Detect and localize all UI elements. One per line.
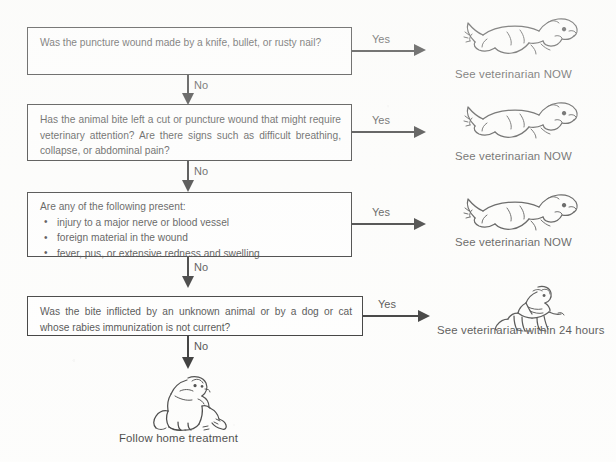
no-connector-3 bbox=[187, 257, 189, 278]
outcome-label-4: See veterinarian within 24 hours bbox=[437, 324, 605, 337]
no-arrowhead-4 bbox=[182, 357, 194, 369]
running-dog-icon bbox=[463, 96, 581, 148]
yes-connector-2 bbox=[352, 131, 416, 133]
decision-box-3-bullet-list: injury to a major nerve or blood vessel … bbox=[40, 215, 341, 262]
decision-box-2[interactable]: Has the animal bite left a cut or punctu… bbox=[27, 104, 352, 161]
yes-arrowhead-2 bbox=[414, 126, 426, 138]
edge-label-no-3: No bbox=[194, 261, 208, 273]
no-arrowhead-3 bbox=[182, 276, 194, 288]
decision-box-4-text: Was the bite inflicted by an unknown ani… bbox=[40, 304, 352, 335]
yes-connector-3 bbox=[352, 223, 416, 225]
list-item: fever, pus, or extensive redness and swe… bbox=[40, 246, 341, 262]
outcome-label-5: Follow home treatment bbox=[119, 432, 238, 445]
edge-label-yes-2: Yes bbox=[372, 114, 390, 126]
outcome-label-1: See veterinarian NOW bbox=[455, 68, 572, 81]
running-dog-icon bbox=[463, 12, 581, 64]
edge-label-no-2: No bbox=[194, 165, 208, 177]
edge-label-no-4: No bbox=[194, 340, 208, 352]
decision-box-3-lead: Are any of the following present: bbox=[40, 199, 341, 215]
edge-label-yes-3: Yes bbox=[372, 206, 390, 218]
yes-connector-4 bbox=[363, 315, 420, 317]
running-dog-icon bbox=[463, 188, 581, 240]
flowchart-page: Was the puncture wound made by a knife, … bbox=[0, 0, 616, 462]
edge-label-no-1: No bbox=[194, 79, 208, 91]
list-item: foreign material in the wound bbox=[40, 230, 341, 246]
decision-box-1[interactable]: Was the puncture wound made by a knife, … bbox=[27, 27, 352, 75]
decision-box-2-text: Has the animal bite left a cut or punctu… bbox=[40, 112, 341, 159]
yes-connector-1 bbox=[352, 50, 416, 52]
decision-box-1-text: Was the puncture wound made by a knife, … bbox=[40, 35, 341, 51]
decision-box-4[interactable]: Was the bite inflicted by an unknown ani… bbox=[27, 296, 363, 336]
edge-label-yes-1: Yes bbox=[372, 33, 390, 45]
outcome-label-3: See veterinarian NOW bbox=[455, 236, 572, 249]
edge-label-yes-4: Yes bbox=[378, 298, 396, 310]
yes-arrowhead-1 bbox=[414, 44, 426, 56]
outcome-label-2: See veterinarian NOW bbox=[455, 150, 572, 163]
decision-box-3[interactable]: Are any of the following present: injury… bbox=[27, 192, 352, 257]
no-connector-2 bbox=[187, 161, 189, 182]
list-item: injury to a major nerve or blood vessel bbox=[40, 215, 341, 231]
no-arrowhead-2 bbox=[182, 180, 194, 192]
yes-arrowhead-3 bbox=[414, 218, 426, 230]
yes-arrowhead-4 bbox=[418, 310, 430, 322]
sitting-dog-icon bbox=[150, 372, 236, 434]
